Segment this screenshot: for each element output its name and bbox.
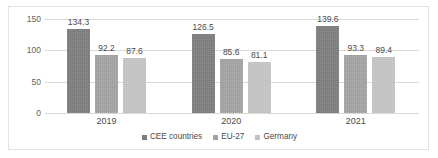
y-tick-label-50: 50 [15, 78, 41, 87]
bar-germany-2020 [248, 62, 271, 113]
legend-item-cee-countries[interactable]: CEE countries [142, 133, 202, 141]
data-label-cee-countries-2020: 126.5 [183, 23, 223, 32]
bar-cee-countries-2021 [316, 26, 339, 113]
bar-eu-27-2021 [344, 55, 367, 113]
data-label-cee-countries-2021: 139.6 [308, 15, 348, 24]
legend-swatch-icon [255, 135, 260, 140]
bar-eu-27-2020 [220, 59, 243, 113]
gridline-150 [45, 19, 419, 20]
bar-cee-countries-2019 [67, 29, 90, 113]
y-tick-label-150: 150 [15, 15, 41, 24]
legend-label: EU-27 [221, 133, 244, 141]
chart-legend: CEE countriesEU-27Germany [9, 133, 430, 141]
legend-item-germany[interactable]: Germany [255, 133, 297, 141]
legend-item-eu-27[interactable]: EU-27 [213, 133, 244, 141]
legend-swatch-icon [213, 135, 218, 140]
x-tick-label-2019: 2019 [77, 117, 137, 126]
legend-label: CEE countries [150, 133, 202, 141]
bar-cee-countries-2020 [192, 34, 215, 113]
data-label-germany-2020: 81.1 [239, 51, 279, 60]
bar-germany-2021 [372, 57, 395, 113]
legend-swatch-icon [142, 135, 147, 140]
data-label-cee-countries-2019: 134.3 [59, 18, 99, 27]
bar-germany-2019 [123, 58, 146, 113]
data-label-germany-2019: 87.6 [115, 47, 155, 56]
x-axis: 201920202021 [45, 117, 419, 129]
plot-area: 134.392.287.6126.585.681.1139.693.389.4 [45, 19, 419, 113]
x-tick-label-2020: 2020 [201, 117, 261, 126]
legend-label: Germany [263, 133, 297, 141]
y-tick-label-0: 0 [15, 109, 41, 118]
gridline-0 [45, 113, 419, 114]
data-label-germany-2021: 89.4 [364, 46, 404, 55]
y-axis: 050100150 [13, 19, 41, 113]
bar-eu-27-2019 [95, 55, 118, 113]
y-tick-label-100: 100 [15, 46, 41, 55]
x-tick-label-2021: 2021 [326, 117, 386, 126]
chart-frame: 050100150 134.392.287.6126.585.681.1139.… [8, 6, 429, 150]
